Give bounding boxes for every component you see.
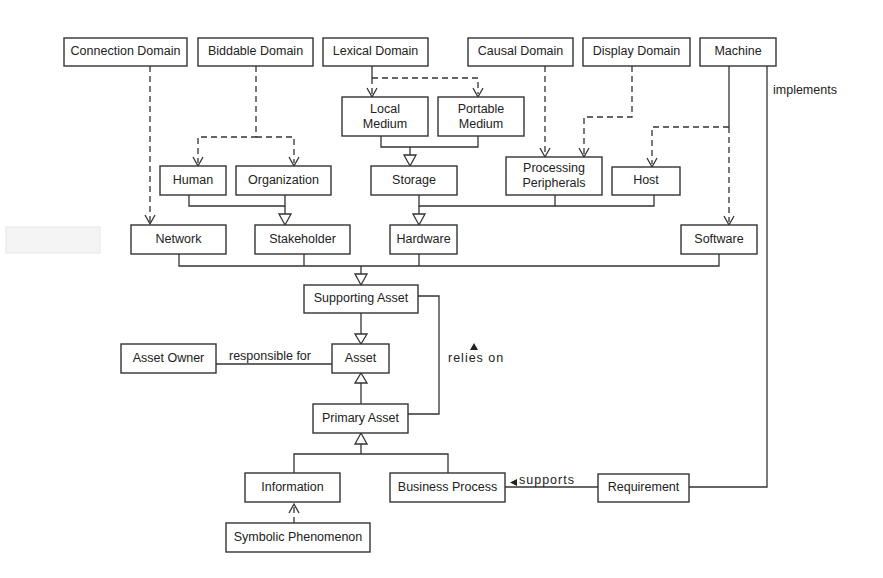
node-organization[interactable]: Organization [236,166,331,195]
node-label: Machine [714,44,761,58]
node-label: Hardware [396,232,450,246]
node-connection-domain[interactable]: Connection Domain [64,38,187,66]
node-human[interactable]: Human [160,166,226,195]
edge-human-org-stakeholder [189,195,285,206]
node-machine[interactable]: Machine [700,38,776,66]
generalization-arrow-icon [355,274,367,285]
node-label: Lexical Domain [333,44,419,58]
node-label: Storage [392,173,436,187]
node-storage[interactable]: Storage [371,166,457,195]
edge-devices-hardware [419,195,654,206]
node-label: Software [694,232,743,246]
node-label: Medium [363,117,407,131]
asset-model-diagram: implements responsible for relies on sup… [0,0,883,578]
node-business-process[interactable]: Business Process [390,473,505,502]
node-network[interactable]: Network [131,225,226,254]
edge-biddable-human [198,66,256,163]
node-label: Network [156,232,203,246]
node-label: Local [370,102,400,116]
generalization-arrow-icon [404,155,416,166]
node-supporting-asset[interactable]: Supporting Asset [304,285,418,313]
edge-info-bp-primary [294,454,448,473]
generalization-arrow-icon [355,433,367,444]
node-display-domain[interactable]: Display Domain [583,38,690,66]
node-requirement[interactable]: Requirement [598,474,689,502]
node-lexical-domain[interactable]: Lexical Domain [323,38,428,66]
node-label: Host [633,173,659,187]
node-label: Causal Domain [478,44,564,58]
label-supports: supports [519,473,575,487]
edge-machine-host [652,127,729,164]
node-label: Primary Asset [322,411,400,425]
node-label: Organization [248,173,319,187]
edge-assets-supporting [179,254,719,266]
node-causal-domain[interactable]: Causal Domain [468,38,573,66]
node-label: Asset Owner [133,351,205,365]
node-stakeholder[interactable]: Stakeholder [255,225,350,254]
edge-machine-requirement [689,66,767,487]
node-label: Biddable Domain [208,44,303,58]
node-symbolic-phenomenon[interactable]: Symbolic Phenomenon [226,523,370,552]
node-primary-asset[interactable]: Primary Asset [313,404,408,433]
direction-up-icon [470,343,478,350]
label-implements: implements [773,83,837,97]
node-host[interactable]: Host [612,167,680,195]
node-label: Peripherals [522,176,585,190]
edge-lexical-portable [372,78,478,94]
generalization-arrow-icon [355,373,367,383]
node-processing-peripherals[interactable]: Processing Peripherals [506,157,602,195]
direction-left-icon [510,479,517,486]
node-information[interactable]: Information [245,473,340,502]
node-hardware[interactable]: Hardware [390,225,457,254]
label-responsible-for: responsible for [229,349,311,363]
label-relies-on: relies on [448,351,504,365]
node-label: Portable [458,102,505,116]
ghost-artifact [6,227,100,253]
node-portable-medium[interactable]: Portable Medium [438,97,524,136]
edge-relies-on [408,296,439,414]
edge-media-storage [381,136,478,147]
node-biddable-domain[interactable]: Biddable Domain [198,38,313,66]
node-label: Requirement [608,480,680,494]
node-label: Symbolic Phenomenon [234,530,363,544]
node-label: Information [261,480,324,494]
node-label: Display Domain [593,44,681,58]
edge-display-processing [584,66,632,154]
node-label: Processing [523,161,585,175]
node-label: Connection Domain [71,44,181,58]
generalization-arrow-icon [279,214,291,225]
edge-biddable-organization [256,137,294,163]
node-label: Medium [459,117,503,131]
node-label: Supporting Asset [314,291,409,305]
node-local-medium[interactable]: Local Medium [342,97,428,136]
node-asset-owner[interactable]: Asset Owner [121,344,216,373]
node-label: Asset [345,351,377,365]
generalization-arrow-icon [355,334,367,344]
node-asset[interactable]: Asset [332,344,389,373]
generalization-arrow-icon [413,214,425,225]
node-software[interactable]: Software [681,225,757,254]
node-label: Human [173,173,213,187]
node-label: Business Process [398,480,497,494]
node-label: Stakeholder [269,232,336,246]
